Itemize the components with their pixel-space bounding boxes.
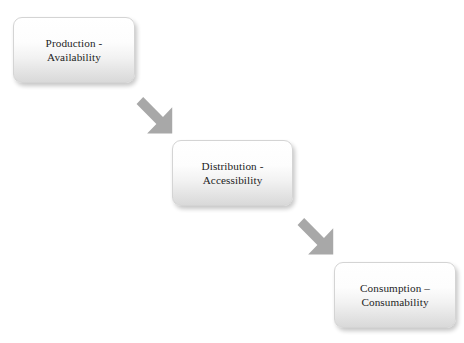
flowchart-node-consumption-label: Consumption – Consumability (354, 281, 436, 310)
flowchart-node-production[interactable]: Production - Availability (13, 17, 135, 83)
flowchart-diagram: Production - Availability Distribution -… (0, 0, 464, 343)
flowchart-node-distribution-label: Distribution - Accessibility (196, 159, 270, 188)
flowchart-node-distribution[interactable]: Distribution - Accessibility (172, 140, 293, 206)
flowchart-node-production-label: Production - Availability (40, 36, 109, 65)
flow-arrow-production-to-distribution-icon (124, 88, 180, 140)
flow-arrow-distribution-to-consumption-icon (285, 209, 341, 261)
flowchart-node-consumption[interactable]: Consumption – Consumability (334, 262, 456, 328)
